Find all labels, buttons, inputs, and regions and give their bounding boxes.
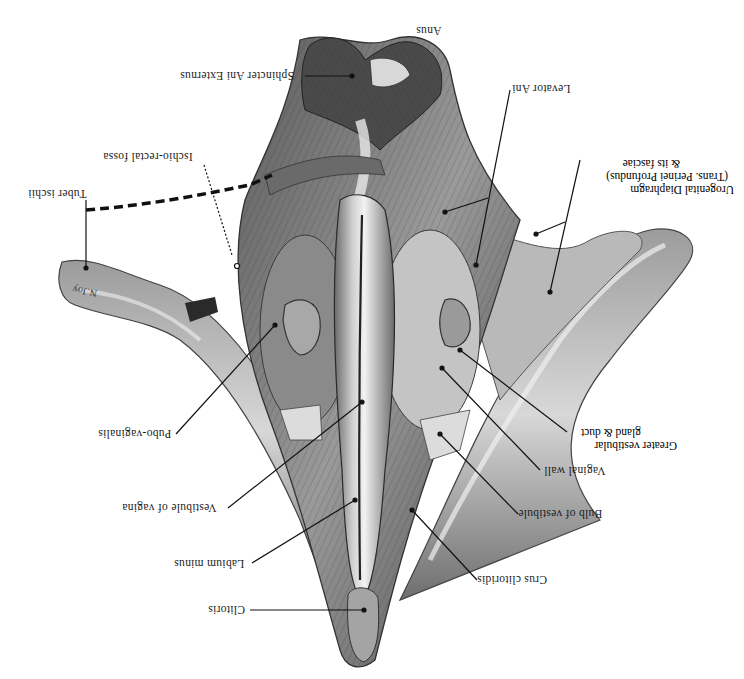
label-crus-clitoridis: Crus clitoridis: [477, 574, 547, 586]
label-pubo-vaginalis: Pubo-vaginalis: [98, 428, 171, 440]
label-ischio-rectal-fossa: Ischio-rectal fossa: [103, 151, 193, 163]
label-tuber-ischii: Tuber ischii: [28, 188, 86, 200]
label-greater-vestibular-gland: Greater vestibular gland & duct: [567, 424, 677, 452]
label-urogenital-diaphragm: Urogenital Diaphragm (Trans. Perinei Pro…: [584, 154, 734, 196]
label-levator-ani: Levator Ani: [512, 83, 571, 95]
label-bulb-of-vestibule: Bulb of vestibule: [518, 508, 602, 520]
label-vestibule-of-vagina: Vestibule of vagina: [122, 502, 216, 514]
label-anus: Anus: [416, 25, 441, 37]
label-labium-minus: Labium minus: [174, 558, 244, 570]
anatomical-figure: Anus Sphincter Ani Externus Levator Ani …: [0, 0, 744, 679]
illustration: [0, 0, 744, 679]
label-vaginal-wall: Vaginal wall: [544, 465, 605, 477]
label-clitoris: Clitoris: [208, 604, 245, 616]
label-sphincter-ani-externus: Sphincter Ani Externus: [180, 70, 294, 82]
